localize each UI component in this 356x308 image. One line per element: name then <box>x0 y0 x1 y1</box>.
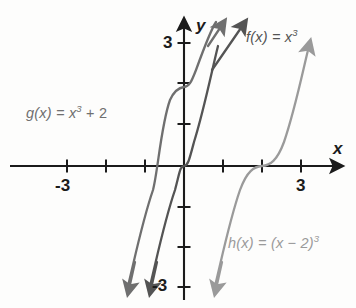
curve-label-h-text: h(x) = (x − 2) <box>228 235 314 251</box>
curve-label-f-exponent: 3 <box>292 27 297 38</box>
curve-label-g-text-post: + 2 <box>82 105 107 121</box>
x-axis-label: x <box>333 140 342 157</box>
curve-label-g: g(x) = x3 + 2 <box>26 106 107 121</box>
curve-label-f: f(x) = x3 <box>246 30 298 45</box>
curve-label-f-text: f(x) = x <box>246 29 292 45</box>
y-tick-label-3: 3 <box>163 34 172 51</box>
cubic-functions-figure: y x 3 -3 -3 3 f(x) = x3 g(x) = x3 + 2 h(… <box>0 0 356 308</box>
curve-label-h: h(x) = (x − 2)3 <box>228 236 319 251</box>
curve-label-h-exponent: 3 <box>314 233 319 244</box>
curve-g <box>128 22 216 286</box>
x-tick-label-minus-3: -3 <box>55 177 70 194</box>
curve-label-g-text: g(x) = x <box>26 105 76 121</box>
y-axis-label: y <box>196 17 205 34</box>
x-tick-label-3: 3 <box>296 177 305 194</box>
y-tick-label-minus-3: -3 <box>152 277 167 294</box>
graph-canvas <box>0 0 356 308</box>
